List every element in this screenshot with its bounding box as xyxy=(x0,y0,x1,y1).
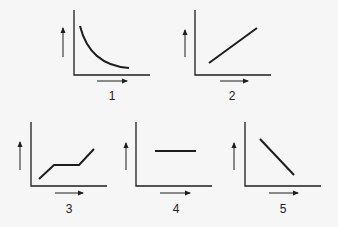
graph-4 xyxy=(126,122,212,193)
graph-4-label: 4 xyxy=(173,203,180,215)
graph-2 xyxy=(185,10,271,81)
graph-3-label: 3 xyxy=(66,203,73,215)
graph-5-line xyxy=(260,139,294,175)
graph-1-curve xyxy=(80,26,129,68)
graph-1 xyxy=(63,10,150,81)
graph-2-label: 2 xyxy=(229,90,236,102)
graph-2-line xyxy=(209,28,257,63)
graph-2-axes xyxy=(195,10,271,75)
graph-1-label: 1 xyxy=(109,90,116,102)
graph-5 xyxy=(234,122,321,193)
graphs-figure xyxy=(0,0,338,227)
graph-5-axes xyxy=(245,122,321,186)
graph-4-axes xyxy=(136,122,212,186)
graph-3 xyxy=(20,122,107,193)
graph-3-line xyxy=(39,149,94,179)
graph-5-label: 5 xyxy=(280,203,287,215)
